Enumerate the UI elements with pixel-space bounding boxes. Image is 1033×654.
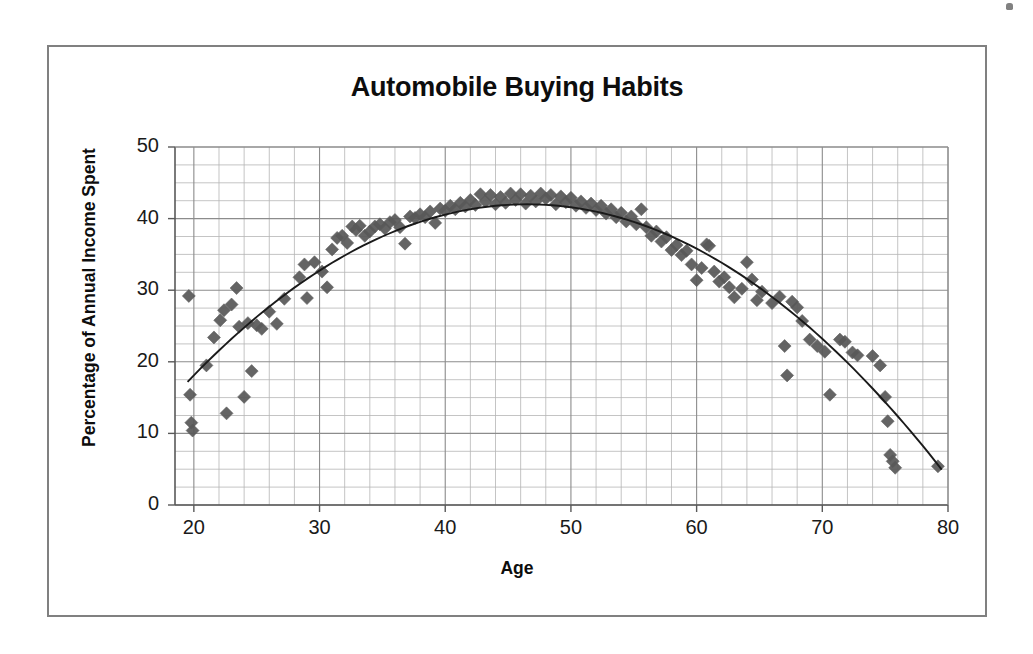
x-tick-label: 80	[925, 516, 971, 539]
y-tick-label: 10	[113, 420, 159, 443]
y-tick-label: 50	[113, 134, 159, 157]
y-tick-label: 30	[113, 277, 159, 300]
scan-artifact-speck	[1006, 3, 1013, 10]
chart-figure-frame: Automobile Buying Habits Percentage of A…	[47, 45, 987, 617]
y-tick-label: 0	[113, 492, 159, 515]
y-tick-label: 20	[113, 349, 159, 372]
x-tick-label: 30	[297, 516, 343, 539]
x-tick-label: 40	[422, 516, 468, 539]
x-tick-label: 20	[171, 516, 217, 539]
trendline-curve	[188, 204, 942, 469]
x-tick-label: 60	[674, 516, 720, 539]
y-tick-label: 40	[113, 206, 159, 229]
x-tick-label: 70	[799, 516, 845, 539]
x-tick-label: 50	[548, 516, 594, 539]
scatter-markers	[182, 187, 944, 474]
